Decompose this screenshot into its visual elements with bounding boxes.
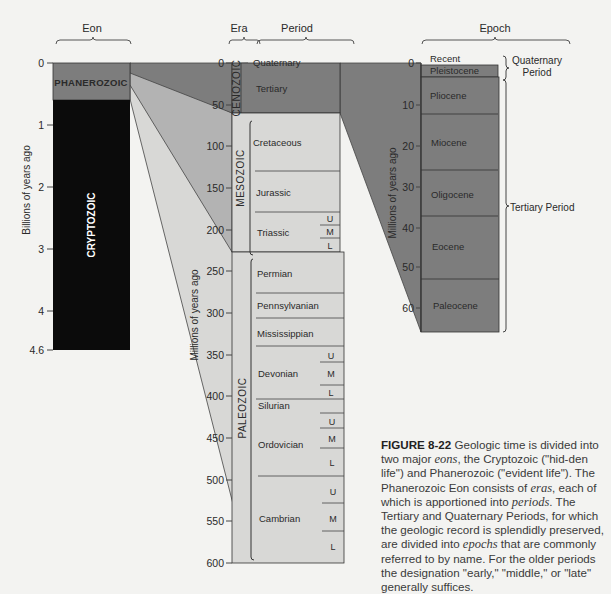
tertiary-bracket [503,80,509,332]
period-silurian: Silurian [258,400,290,411]
svg-text:3: 3 [38,243,44,255]
svg-text:20: 20 [402,140,414,152]
cryptozoic-label: CRYPTOZOIC [86,192,97,257]
paleozoic-label: PALEOZOIC [237,378,248,439]
eon-header: Eon [82,22,102,34]
epoch-paleocene: Paleocene [433,300,478,311]
quaternary-period-label-2: Period [523,67,552,78]
svg-text:M: M [329,514,337,524]
svg-text:2: 2 [38,181,44,193]
period-devonian: Devonian [258,368,298,379]
quaternary-period-label-1: Quaternary [512,55,562,66]
svg-text:300: 300 [206,307,224,319]
epoch-pleistocene: Pleistocene [430,65,479,76]
svg-text:L: L [327,241,332,251]
svg-text:M: M [326,227,334,237]
tertiary-period-label: Tertiary Period [510,202,574,213]
eon-axis-label: Billions of years ago [21,145,32,235]
period-permian: Permian [257,268,292,279]
svg-text:50: 50 [402,261,414,273]
svg-text:30: 30 [402,181,414,193]
period-mississippian: Mississippian [257,328,314,339]
svg-text:600: 600 [206,557,224,569]
svg-text:500: 500 [206,474,224,486]
epoch-oligocene: Oligocene [431,189,474,200]
cenozoic-label: CENOZOIC [231,60,242,117]
svg-text:0: 0 [408,57,414,69]
mesozoic-label: MESOZOIC [235,149,246,206]
header-braces [56,37,570,44]
svg-text:250: 250 [206,265,224,277]
tertiary-epoch-block [421,77,499,332]
svg-text:1: 1 [38,119,44,131]
epoch-header: Epoch [479,22,510,34]
svg-text:450: 450 [206,432,224,444]
quaternary-bracket [503,56,509,80]
svg-text:550: 550 [206,515,224,527]
period-triassic: Triassic [257,227,290,238]
period-tertiary: Tertiary [256,83,287,94]
svg-text:U: U [327,214,334,224]
svg-text:100: 100 [206,140,224,152]
svg-text:200: 200 [206,224,224,236]
svg-text:M: M [328,434,336,444]
svg-text:0: 0 [218,57,224,69]
epoch-miocene: Miocene [431,137,467,148]
period-cambrian: Cambrian [259,513,300,524]
svg-text:L: L [328,388,333,398]
period-quaternary: Quaternary [253,57,301,68]
phanerozoic-label: PHANEROZOIC [54,77,128,88]
svg-text:400: 400 [206,390,224,402]
eon-axis [47,63,53,350]
era-axis-label: Millions of years ago [189,269,200,361]
period-pennsylvanian: Pennsylvanian [257,300,319,311]
svg-text:4: 4 [38,305,44,317]
svg-text:L: L [330,542,335,552]
figure-caption: FIGURE 8-22 Geologic time is divided int… [381,438,607,594]
period-jurassic: Jurassic [256,187,291,198]
epoch-eocene: Eocene [432,241,464,252]
svg-text:0: 0 [38,57,44,69]
svg-text:50: 50 [212,99,224,111]
period-cretaceous: Cretaceous [253,137,302,148]
svg-text:L: L [329,458,334,468]
svg-text:150: 150 [206,182,224,194]
svg-text:4.6: 4.6 [29,344,44,356]
svg-text:M: M [327,369,335,379]
era-header: Era [230,22,248,34]
svg-text:60: 60 [402,302,414,314]
epoch-axis-label: Millions of years ago [387,147,398,239]
svg-text:10: 10 [402,99,414,111]
epoch-recent: Recent [430,53,460,64]
svg-text:U: U [328,351,335,361]
svg-text:U: U [330,487,337,497]
period-ordovician: Ordovician [258,439,303,450]
epoch-pliocene: Pliocene [430,90,466,101]
svg-text:350: 350 [206,349,224,361]
svg-text:40: 40 [402,222,414,234]
svg-text:U: U [329,417,336,427]
period-header: Period [281,22,313,34]
